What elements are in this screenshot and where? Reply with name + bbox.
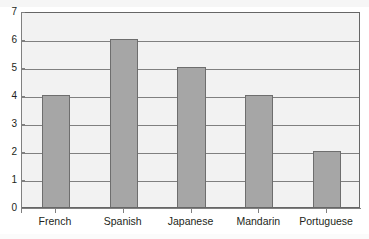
x-axis-tick-mark [326,209,327,213]
x-axis-tick-mark [21,209,22,213]
x-axis-tick-mark [258,209,259,213]
scan-tint-top [0,0,369,7]
y-axis-tick-label: 3 [3,119,17,129]
x-axis-category-label: French [21,215,89,228]
y-axis-tick-label: 4 [3,91,17,101]
y-axis-tick-label: 2 [3,147,17,157]
y-axis-tick-mark [21,96,25,97]
y-axis-tick-mark [21,180,25,181]
x-axis-tick-mark [191,209,192,213]
y-axis-tick-mark [21,152,25,153]
bar [42,95,70,207]
bar [110,39,138,207]
x-axis-category-label: Japanese [157,215,225,228]
bar [245,95,273,207]
x-axis-category-label: Spanish [89,215,157,228]
y-axis-tick-label: 7 [3,7,17,17]
x-axis-tick-mark [123,209,124,213]
bar [177,67,205,207]
y-axis-tick-label: 0 [3,203,17,213]
plot-area [21,12,360,208]
gridline [22,41,359,42]
y-axis-tick-mark [21,124,25,125]
x-axis-tick-mark [55,209,56,213]
y-axis-tick-label: 1 [3,175,17,185]
y-axis-tick-mark [21,12,25,13]
y-axis-tick-labels: 7 6 5 4 3 2 1 0 [0,0,17,239]
scan-tint-bottom [0,234,369,239]
bar-chart: 7 6 5 4 3 2 1 0 FrenchSpanishJapaneseMan… [0,0,369,239]
y-axis-tick-mark [21,68,25,69]
x-axis-category-label: Portuguese [292,215,360,228]
x-axis-category-label: Mandarin [224,215,292,228]
y-axis-tick-label: 5 [3,63,17,73]
bar [313,151,341,207]
y-axis-tick-mark [21,40,25,41]
y-axis-tick-label: 6 [3,35,17,45]
